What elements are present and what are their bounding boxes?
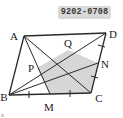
vertex-label-p: P [28,62,34,74]
vertex-label-d: D [109,28,117,40]
geometry-figure: A D B C M N P Q [0,0,123,118]
tick-dn-icon [98,45,105,47]
corner-artifact [1,114,4,117]
vertex-label-a: A [10,30,18,42]
vertex-label-b: B [0,91,7,103]
vertex-label-q: Q [64,37,72,49]
segment-ab [9,36,24,95]
segment-ad [24,33,106,36]
figure-canvas: 9202-0708 A D B C M N P Q [0,0,123,118]
shaded-pentagon-pqncm [37,50,98,94]
vertex-label-n: N [101,58,109,70]
vertex-label-c: C [95,92,102,104]
vertex-label-m: M [44,101,54,113]
